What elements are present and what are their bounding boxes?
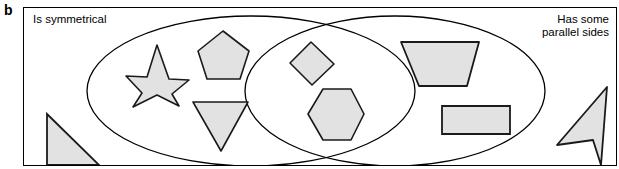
shape-pentagon [198,31,249,79]
shape-inverted-triangle [193,102,248,151]
left-set-ellipse [87,16,415,165]
figure-letter-label: b [4,2,13,18]
shape-star [126,45,189,107]
shape-hexagon [308,89,364,140]
left-set-label: Is symmetrical [33,13,106,26]
diagram-frame: Is symmetrical Has some parallel sides [23,7,617,166]
shape-right-triangle [47,114,99,165]
right-set-label: Has some parallel sides [542,13,609,39]
shape-rectangle [442,106,510,134]
venn-svg-canvas [24,8,616,165]
venn-diagram-figure: b Is symmetrical Has some parallel sides [0,0,619,169]
shape-dart [557,87,607,165]
shape-diamond [290,42,334,85]
right-set-ellipse [245,16,545,165]
